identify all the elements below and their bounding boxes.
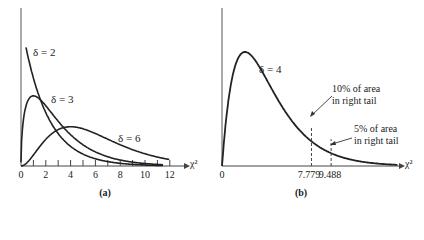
b-tick-7779: 7.779 [298,169,321,180]
curve-df4 [222,52,397,166]
a-tick-label: 8 [118,169,123,180]
a-tick-label: 0 [19,169,24,180]
arrow-10pct-head-icon [310,111,315,117]
a-tick-label: 10 [140,169,150,180]
caption-b: (b) [295,187,307,198]
annotation-5pct-line1: 5% of area [354,123,397,135]
annotation-10pct-line2: in right tail [332,95,376,107]
a-tick-label: 12 [165,169,175,180]
label-df6: δ = 6 [118,132,140,144]
label-df2: δ = 2 [33,46,55,58]
annotation-5pct-line2: in right tail [354,135,398,147]
a-tick-label: 2 [43,169,48,180]
b-tick-0: 0 [220,169,225,180]
b-tick-9488: 9.488 [319,169,342,180]
a-axis-label: χ² [190,158,197,170]
a-tick-label: 6 [93,169,98,180]
arrow-10pct [311,96,332,116]
b-axis-label: χ² [405,158,412,170]
annotation-10pct-line1: 10% of area [332,83,380,95]
label-df3: δ = 3 [51,93,73,105]
label-df4: δ = 4 [259,63,281,75]
caption-a: (a) [99,187,111,198]
a-tick-label: 4 [68,169,73,180]
